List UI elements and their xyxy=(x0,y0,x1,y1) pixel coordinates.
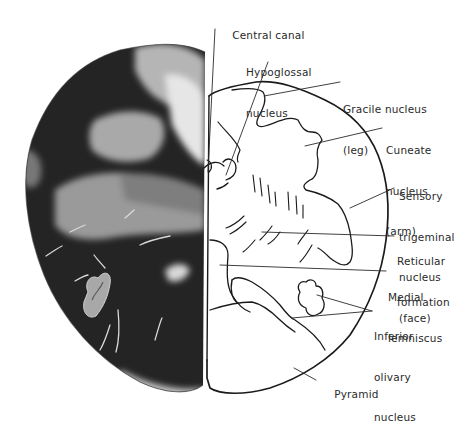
label-hypoglossal-nucleus: Hypoglossal nucleus xyxy=(246,39,312,147)
label-pyramid: Pyramid xyxy=(320,374,379,415)
inferior-olive-outline xyxy=(298,280,324,316)
label-text: Gracile nucleus xyxy=(343,103,427,117)
label-text: Inferior xyxy=(374,330,416,344)
label-text: Hypoglossal xyxy=(246,66,312,80)
label-text: Cuneate xyxy=(386,144,432,158)
label-text: nucleus xyxy=(374,411,416,425)
label-text: Pyramid xyxy=(334,388,379,400)
label-text: Sensory xyxy=(399,190,455,204)
stained-section-left-half xyxy=(0,30,210,407)
label-text: nucleus xyxy=(246,107,312,121)
label-text: olivary xyxy=(374,371,416,385)
label-inferior-olivary-nucleus: Inferior olivary nucleus xyxy=(374,303,416,425)
